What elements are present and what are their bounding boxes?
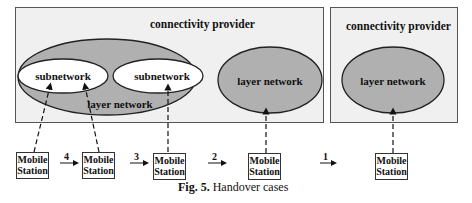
step-4-label: 4 (64, 151, 69, 162)
mobile-station-2: MobileStation (82, 152, 115, 179)
subnetwork-1-label: subnetwork (35, 70, 91, 82)
step-1-label: 1 (323, 151, 328, 162)
mobile-station-5: MobileStation (375, 153, 408, 180)
mobile-station-3: MobileStation (153, 153, 186, 180)
mobile-station-4: MobileStation (248, 153, 281, 180)
figure-caption: Fig. 5. Handover cases (178, 180, 288, 195)
layer-network-middle-label: layer network (237, 75, 302, 87)
provider-title-left: connectivity provider (150, 18, 255, 30)
layer-network-left-label: layer network (87, 98, 152, 110)
step-3-label: 3 (134, 151, 139, 162)
mobile-station-1: MobileStation (16, 152, 49, 179)
provider-title-right: connectivity provider (346, 20, 451, 32)
subnetwork-2-label: subnetwork (134, 70, 190, 82)
step-2-label: 2 (212, 151, 217, 162)
layer-network-right-label: layer network (360, 75, 425, 87)
